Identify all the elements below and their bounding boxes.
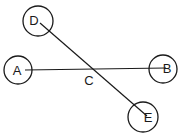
node-b-label: B: [163, 61, 172, 76]
diagram-canvas: D A B E C: [0, 0, 186, 140]
edge-a-b: [25, 68, 166, 70]
node-d-label: D: [29, 13, 38, 28]
node-e-label: E: [144, 110, 153, 125]
intersection-c-label: C: [84, 73, 93, 88]
node-a-label: A: [13, 63, 22, 78]
